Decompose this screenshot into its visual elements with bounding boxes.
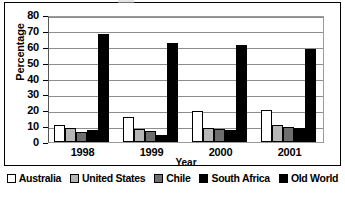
y-axis-tick-label: 0 [0,137,39,148]
y-axis-tick-mark [43,111,48,112]
y-axis-tick-mark [43,48,48,49]
y-axis-tick-label: 10 [0,121,39,132]
y-axis-title: Percentage [14,2,26,102]
plot-area [48,16,324,143]
x-axis-tick-label: 1999 [117,146,186,158]
y-axis-tick-mark [43,127,48,128]
legend-label: United States [82,172,145,184]
y-axis-tick-mark [43,32,48,33]
legend-item-old-world[interactable]: Old World [279,172,338,184]
scan-artifact [118,0,134,3]
bar-south-africa-1998 [87,130,98,142]
chart-legend: AustraliaUnited StatesChileSouth AfricaO… [4,172,341,184]
bar-chile-1999 [145,131,156,142]
bar-united-states-2001 [272,125,283,142]
bar-united-states-1999 [134,129,145,142]
y-axis-tick-mark [43,95,48,96]
bar-south-africa-2001 [294,128,305,142]
x-axis-tick-label: 2000 [186,146,255,158]
bar-chile-1998 [76,132,87,142]
bar-group-1999 [118,17,187,142]
bar-australia-2000 [192,111,203,142]
legend-swatch-icon [7,174,16,183]
bar-south-africa-2000 [225,130,236,142]
x-axis-tick-label: 2001 [255,146,324,158]
bar-australia-1998 [54,125,65,142]
bar-united-states-1998 [65,128,76,142]
legend-label: South Africa [211,172,269,184]
legend-swatch-icon [279,174,288,183]
legend-item-united-states[interactable]: United States [70,172,145,184]
x-axis-title: Year [48,157,324,168]
legend-swatch-icon [70,174,79,183]
y-axis-tick-mark [43,143,48,144]
bar-australia-1999 [123,117,134,142]
bar-group-1998 [49,17,118,142]
bar-group-2001 [256,17,325,142]
bar-group-2000 [187,17,256,142]
bar-old-world-1998 [98,34,109,142]
bar-south-africa-1999 [156,135,167,142]
legend-label: Old World [291,172,338,184]
bar-chart-figure: 01020304050607080 Percentage Year Austra… [0,0,345,198]
bar-australia-2001 [261,110,272,142]
y-axis-tick-mark [43,16,48,17]
legend-swatch-icon [154,174,163,183]
y-axis-tick-mark [43,80,48,81]
bar-old-world-2000 [236,45,247,142]
legend-label: Australia [19,172,61,184]
y-axis-tick-mark [43,64,48,65]
bar-chile-2000 [214,129,225,142]
legend-swatch-icon [199,174,208,183]
legend-item-south-africa[interactable]: South Africa [199,172,269,184]
bar-chile-2001 [283,127,294,142]
legend-item-chile[interactable]: Chile [154,172,190,184]
legend-item-australia[interactable]: Australia [7,172,61,184]
legend-label: Chile [166,172,190,184]
x-axis-tick-label: 1998 [48,146,117,158]
bar-old-world-2001 [305,49,316,142]
bar-united-states-2000 [203,128,214,142]
bar-old-world-1999 [167,43,178,142]
y-axis-tick-label: 20 [0,105,39,116]
